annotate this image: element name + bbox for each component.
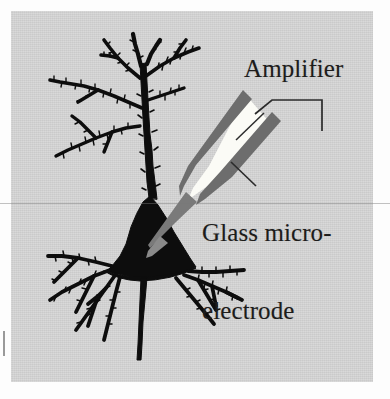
label-glass-microelectrode-line2: electrode bbox=[202, 298, 332, 324]
label-amplifier: Amplifier bbox=[244, 56, 343, 82]
label-glass-microelectrode-line1: Glass micro- bbox=[202, 220, 332, 246]
margin-tick-mark bbox=[3, 331, 5, 356]
oblique-branch-left-lower bbox=[56, 116, 140, 156]
oblique-branch-right-mid-spines bbox=[160, 85, 179, 100]
oblique-branch-right-upper-spines bbox=[158, 44, 193, 70]
basal-dendrites-left bbox=[48, 256, 120, 340]
axon bbox=[137, 278, 147, 360]
label-glass-microelectrode: Glass micro- electrode bbox=[202, 168, 332, 376]
oblique-branch-left-mid bbox=[50, 80, 142, 108]
figure-root: Amplifier Glass micro- electrode bbox=[0, 0, 390, 399]
